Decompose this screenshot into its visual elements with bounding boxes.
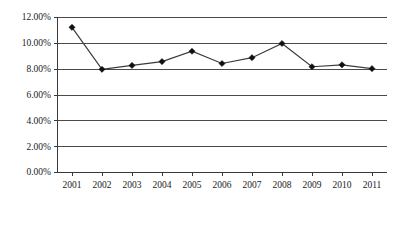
y-tick-label: 8.00%	[26, 64, 51, 74]
x-tick-label: 2006	[213, 180, 232, 190]
data-point-marker	[219, 60, 225, 66]
x-tick-label: 2003	[123, 180, 142, 190]
y-axis-labels-group: 0.00%2.00%4.00%6.00%8.00%10.00%12.00%	[22, 12, 51, 177]
data-point-marker	[339, 62, 345, 68]
y-tick-label: 0.00%	[26, 167, 51, 177]
y-tick-label: 4.00%	[26, 116, 51, 126]
x-tick-label: 2009	[303, 180, 322, 190]
x-tickmarks-group	[54, 18, 373, 177]
line-chart: 0.00%2.00%4.00%6.00%8.00%10.00%12.00% 20…	[0, 0, 402, 235]
x-tick-label: 2002	[93, 180, 112, 190]
x-axis-labels-group: 2001200220032004200520062007200820092010…	[63, 180, 382, 190]
y-tick-label: 2.00%	[26, 142, 51, 152]
x-tick-label: 2005	[183, 180, 202, 190]
x-tick-label: 2001	[63, 180, 82, 190]
x-tick-label: 2008	[273, 180, 292, 190]
x-tick-label: 2010	[333, 180, 352, 190]
data-point-marker	[189, 48, 195, 54]
chart-canvas: 0.00%2.00%4.00%6.00%8.00%10.00%12.00% 20…	[0, 0, 402, 235]
data-point-marker	[369, 66, 375, 72]
x-tick-label: 2004	[153, 180, 172, 190]
y-tick-label: 12.00%	[22, 12, 51, 22]
gridlines-group	[57, 18, 387, 173]
data-point-marker	[129, 62, 135, 68]
data-point-marker	[249, 55, 255, 61]
x-tick-label: 2011	[363, 180, 382, 190]
y-tick-label: 10.00%	[22, 38, 51, 48]
x-tick-label: 2007	[243, 180, 262, 190]
y-tick-label: 6.00%	[26, 90, 51, 100]
data-point-marker	[159, 58, 165, 64]
